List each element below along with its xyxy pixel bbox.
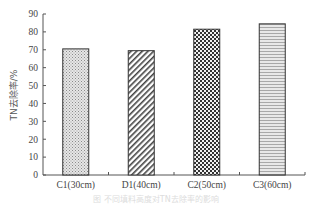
y-tick-label: 40 xyxy=(29,99,39,109)
x-category-label: D1(40cm) xyxy=(122,180,161,191)
bar-c360cm xyxy=(259,24,285,175)
y-tick-label: 90 xyxy=(29,9,39,19)
bar-c130cm xyxy=(63,49,89,175)
bars: C1(30cm)D1(40cm)C2(50cm)C3(60cm) xyxy=(56,24,291,191)
y-axis: 0102030405060708090 xyxy=(29,9,47,180)
y-tick-label: 80 xyxy=(29,27,39,37)
x-category-label: C2(50cm) xyxy=(187,180,226,191)
bar-c250cm xyxy=(194,29,220,175)
y-tick-label: 0 xyxy=(33,170,38,180)
bar-d140cm xyxy=(128,51,154,175)
chart-svg: 0102030405060708090 C1(30cm)D1(40cm)C2(5… xyxy=(0,0,312,206)
y-tick-label: 30 xyxy=(29,117,39,127)
y-axis-label: TN去除率/% xyxy=(8,69,19,121)
y-tick-label: 50 xyxy=(29,81,39,91)
y-tick-label: 20 xyxy=(29,135,39,145)
y-tick-label: 60 xyxy=(29,63,39,73)
x-category-label: C3(60cm) xyxy=(253,180,292,191)
y-tick-label: 70 xyxy=(29,45,39,55)
figure-caption: 图 不同填料高度对TN去除率的影响 xyxy=(0,193,312,204)
x-category-label: C1(30cm) xyxy=(56,180,95,191)
y-tick-label: 10 xyxy=(29,152,39,162)
